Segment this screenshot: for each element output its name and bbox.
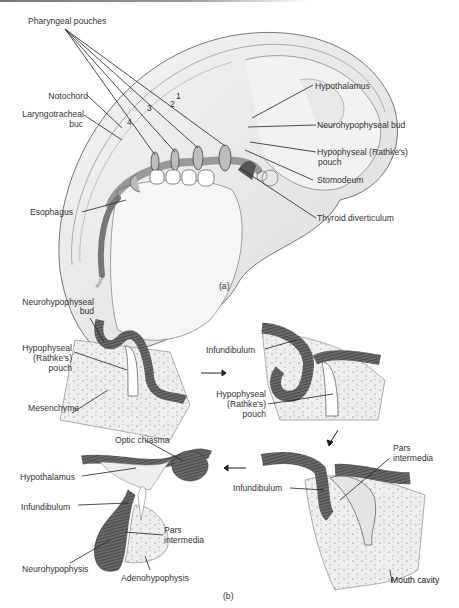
label-pars-s4-2: intermedia — [164, 535, 204, 545]
label-hypophyseal-s2-1: Hypophyseal — [200, 389, 266, 399]
label-hypophyseal-s1-2: (Rathke's) — [10, 353, 72, 363]
label-mesenchyme: Mesenchyme — [28, 403, 79, 413]
label-hypophyseal-pouch-a-1: Hypophyseal (Rathke's) — [317, 147, 408, 157]
label-hypophyseal-s1-3: pouch — [10, 363, 72, 373]
label-pars-s3-1: Pars — [393, 443, 411, 453]
label-hypophyseal-s2-3: pouch — [200, 409, 266, 419]
label-thyroid-diverticulum: Thyroid diverticulum — [317, 213, 394, 223]
label-adenohypophysis: Adenohypophysis — [121, 573, 189, 583]
label-neurohypophyseal-bud-a: Neurohypophyseal bud — [317, 120, 405, 130]
label-infundibulum-s3: Infundibulum — [233, 483, 282, 493]
label-stomodeum: Stomodeum — [317, 175, 363, 185]
label-infundibulum-s4: Infundibulum — [21, 502, 70, 512]
panel-label-b: (b) — [223, 591, 234, 601]
label-hypothalamus-a: Hypothalamus — [315, 81, 370, 91]
label-pouch-2: 2 — [170, 99, 175, 109]
label-laryngotracheal-1: Laryngotracheal — [10, 109, 84, 119]
label-pars-s3-2: intermedia — [393, 453, 433, 463]
panel-label-a: (a) — [219, 281, 230, 291]
label-pouch-3: 3 — [147, 103, 152, 113]
stage2-drawing — [262, 328, 385, 420]
label-pharyngeal-pouches: Pharyngeal pouches — [28, 16, 106, 26]
label-laryngotracheal-2: buc — [10, 119, 83, 129]
label-esophagus: Esophagus — [30, 207, 73, 217]
label-neurohypophyseal-bud-2: bud — [10, 306, 94, 316]
stage3-drawing — [262, 458, 425, 590]
label-notochord: Notochord — [30, 91, 88, 101]
label-infundibulum-s2: Infundibulum — [206, 345, 255, 355]
label-mouth-cavity: Mouth cavity — [391, 575, 439, 585]
label-neurohypophysis: Neurohypophysis — [22, 564, 88, 574]
label-hypophyseal-pouch-a-2: pouch — [318, 157, 341, 167]
label-hypophyseal-s2-2: (Rathke's) — [200, 399, 266, 409]
label-pouch-1: 1 — [176, 91, 181, 101]
label-pars-s4-1: Pars — [164, 525, 182, 535]
label-pouch-4: 4 — [127, 117, 132, 127]
label-hypophyseal-s1-1: Hypophyseal — [10, 343, 72, 353]
stage4-drawing — [82, 451, 210, 571]
label-hypothalamus-b: Hypothalamus — [20, 472, 75, 482]
label-optic-chiasma: Optic chiasma — [115, 435, 169, 445]
